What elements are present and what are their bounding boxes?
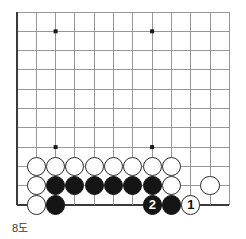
- white-stone[interactable]: [46, 157, 65, 176]
- go-diagram-figure: 21 8도: [0, 0, 246, 239]
- black-stone[interactable]: [85, 176, 104, 195]
- white-stone[interactable]: [104, 157, 123, 176]
- go-board[interactable]: 21: [0, 0, 246, 215]
- white-stone[interactable]: [27, 157, 46, 176]
- move-number-label: 1: [187, 198, 194, 211]
- white-stone[interactable]: [143, 157, 162, 176]
- white-stone[interactable]: [200, 176, 219, 195]
- black-stone[interactable]: [46, 195, 65, 214]
- white-stone[interactable]: [162, 157, 181, 176]
- white-stone[interactable]: [27, 195, 46, 214]
- move-stone-2[interactable]: 2: [143, 195, 162, 214]
- white-stone[interactable]: [85, 157, 104, 176]
- move-stone-1[interactable]: 1: [181, 195, 200, 214]
- black-stone[interactable]: [162, 195, 181, 214]
- white-stone[interactable]: [27, 176, 46, 195]
- move-number-label: 2: [149, 198, 156, 211]
- figure-caption: 8도: [12, 219, 29, 235]
- black-stone[interactable]: [143, 176, 162, 195]
